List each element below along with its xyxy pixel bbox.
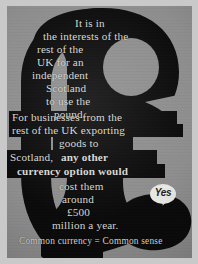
speech-bubble-tail-icon <box>163 198 170 207</box>
copy-line-emphasis: any other <box>61 151 108 163</box>
poster-image: It is in the interests of the rest of th… <box>0 0 198 264</box>
copy-line: goods to <box>59 137 98 149</box>
copy-line: the interests of the <box>43 30 128 42</box>
copy-line: million a year. <box>52 219 119 231</box>
copy-line-emphasis: currency option would <box>17 165 128 177</box>
copy-line: rest of the UK exporting <box>12 124 125 136</box>
yes-logo-label: Yes <box>150 187 176 198</box>
copy-line: to use the <box>46 95 90 107</box>
copy-line: Scotland, <box>10 151 53 163</box>
copy-line: cost them <box>59 180 104 192</box>
copy-line: It is in <box>75 17 105 29</box>
copy-line: around <box>62 193 94 205</box>
copy-line: rest of the <box>37 43 83 55</box>
poster-tagline: Common currency = Common sense <box>19 236 163 246</box>
poster-face: It is in the interests of the rest of th… <box>7 6 192 258</box>
copy-line: Scotland <box>46 82 86 94</box>
copy-line: independent <box>32 69 88 81</box>
yes-campaign-logo: Yes <box>150 184 180 208</box>
copy-line: For businesses from the <box>12 111 122 123</box>
copy-line: £500 <box>67 206 90 218</box>
poster-copy: It is in the interests of the rest of th… <box>7 6 192 258</box>
copy-line: UK for an <box>37 56 84 68</box>
